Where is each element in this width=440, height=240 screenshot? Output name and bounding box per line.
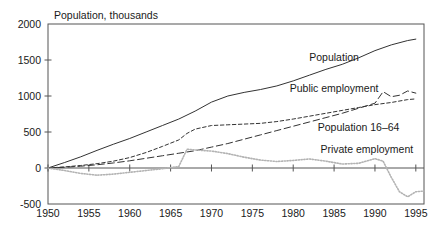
y-axis-tick-labels: 2000150010005000-500 xyxy=(18,18,42,210)
y-tick-label-1000: 1000 xyxy=(18,90,42,102)
series-annotations: PopulationPublic employmentPopulation 16… xyxy=(290,51,414,154)
annotation-population-16-64: Population 16–64 xyxy=(318,121,400,133)
x-tick-label-1950: 1950 xyxy=(36,207,60,219)
y-tick-label-500: 500 xyxy=(23,126,41,138)
y-tick-label-1500: 1500 xyxy=(18,54,42,66)
line-chart-canvas: 2000150010005000-500 1950195519601965197… xyxy=(0,0,440,240)
x-tick-label-1995: 1995 xyxy=(404,207,428,219)
x-tick-label-1980: 1980 xyxy=(282,207,306,219)
series-line-private-employment xyxy=(48,149,424,197)
x-tick-label-1985: 1985 xyxy=(322,207,346,219)
x-tick-label-1960: 1960 xyxy=(118,207,142,219)
y-axis-units-title: Population, thousands xyxy=(54,9,158,21)
plot-frame xyxy=(48,24,424,204)
x-tick-label-1965: 1965 xyxy=(159,207,183,219)
annotation-private-employment: Private employment xyxy=(320,143,413,155)
x-tick-label-1990: 1990 xyxy=(363,207,387,219)
annotation-public-employment: Public employment xyxy=(290,82,379,94)
x-tick-label-1975: 1975 xyxy=(241,207,265,219)
y-tick-label-2000: 2000 xyxy=(18,18,42,30)
data-series-group xyxy=(48,39,424,197)
chart-title-group: Population, thousands xyxy=(54,9,158,21)
annotation-population: Population xyxy=(309,51,359,63)
y-tick-label-0: 0 xyxy=(35,162,41,174)
series-line-population-16-64 xyxy=(48,99,416,168)
chart-figure: 2000150010005000-500 1950195519601965197… xyxy=(0,0,440,240)
x-tick-label-1955: 1955 xyxy=(77,207,101,219)
x-axis-tick-labels: 1950195519601965197019751980198519901995 xyxy=(36,207,427,219)
axes-group xyxy=(48,24,424,204)
x-tick-label-1970: 1970 xyxy=(200,207,224,219)
